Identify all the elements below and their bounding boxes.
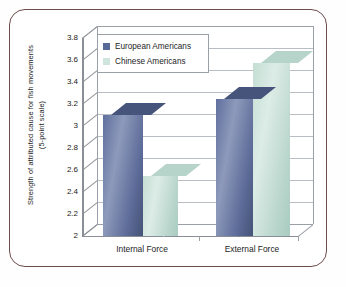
y-axis-tick-label: 2.2 <box>44 210 78 218</box>
y-axis-line <box>82 38 84 236</box>
y-axis-tick-label: 2.8 <box>44 144 78 152</box>
x-axis-label-external-force: External Force <box>192 244 312 254</box>
bar-front-face <box>103 115 143 236</box>
bar-top-face <box>261 51 313 63</box>
legend-item: Chinese Americans <box>103 54 203 69</box>
bar-top-face <box>151 164 201 176</box>
floor-depth-right <box>298 224 314 237</box>
axis-depth-connector <box>82 92 98 105</box>
bar-internal-force-european-americans <box>103 115 143 236</box>
bar-internal-force-chinese-americans <box>143 176 178 237</box>
axis-depth-connector <box>82 158 98 171</box>
axis-depth-connector <box>82 202 98 215</box>
y-axis-tick-label: 3.6 <box>44 56 78 64</box>
y-axis-tick-labels: 22.22.42.62.833.23.43.63.8 <box>44 0 78 287</box>
y-axis-tick-label: 3.4 <box>44 78 78 86</box>
x-axis-line <box>82 236 298 237</box>
y-axis-tick-label: 3.8 <box>44 34 78 42</box>
axis-depth-connector <box>82 70 98 83</box>
floor-depth-left <box>82 224 98 237</box>
x-axis-category-tick <box>199 236 200 241</box>
legend-label-european-americans: European Americans <box>115 42 191 51</box>
chart-legend: European Americans Chinese Americans <box>97 34 209 73</box>
y-axis-tick-label: 2.4 <box>44 188 78 196</box>
axis-depth-top <box>82 26 98 39</box>
axis-depth-connector <box>82 48 98 61</box>
back-wall-top-edge <box>97 26 313 27</box>
y-axis-tick-label: 2 <box>44 232 78 240</box>
legend-swatch-chinese-americans <box>103 58 110 65</box>
y-axis-tick-label: 2.6 <box>44 166 78 174</box>
legend-swatch-european-americans <box>103 43 110 50</box>
axis-depth-connector <box>82 136 98 149</box>
axis-depth-connector <box>82 180 98 193</box>
legend-item: European Americans <box>103 39 203 54</box>
back-wall-right-edge <box>313 26 314 224</box>
chart-figure: Strength of attributed cause for fish mo… <box>0 0 346 287</box>
x-axis-end-tick <box>298 236 299 241</box>
y-axis-tick-label: 3 <box>44 122 78 130</box>
y-axis-tick-label: 3.2 <box>44 100 78 108</box>
legend-label-chinese-americans: Chinese Americans <box>115 57 186 66</box>
x-axis-label-internal-force: Internal Force <box>82 244 202 254</box>
bar-front-face <box>216 99 253 237</box>
bar-front-face <box>143 176 178 237</box>
axis-depth-connector <box>82 114 98 127</box>
bar-external-force-european-americans <box>216 99 253 237</box>
